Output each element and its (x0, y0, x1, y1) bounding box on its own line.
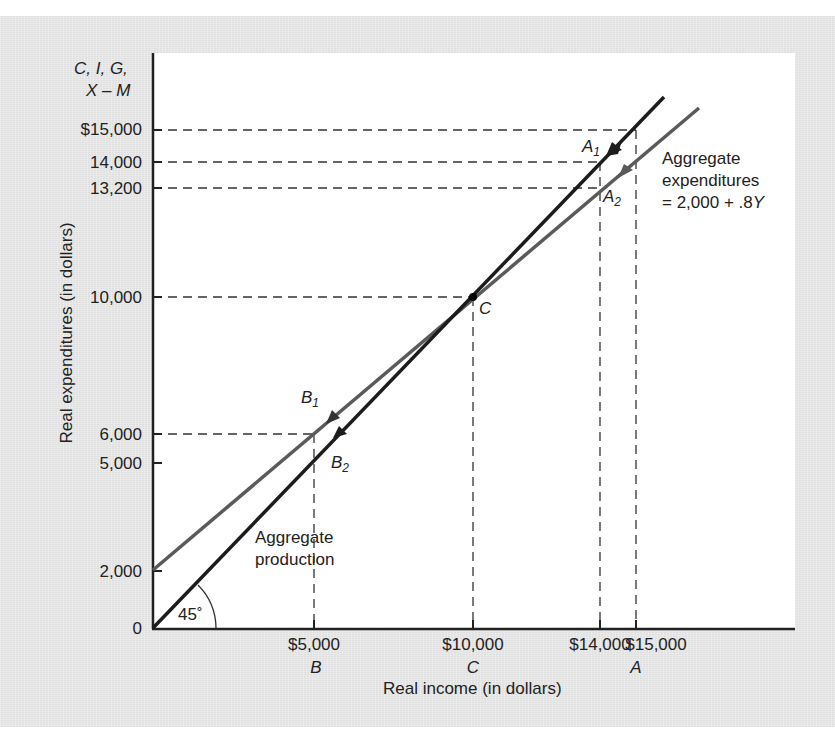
y-axis-top-label-2: X – M (86, 82, 130, 99)
ap-annotation-line2: production (255, 551, 334, 568)
x-tick-5000: $5,000 (264, 636, 364, 653)
ap-annotation-line1: Aggregate (255, 529, 333, 546)
y-tick-13200: 13,200 (22, 180, 142, 197)
x-axis-label: Real income (in dollars) (383, 680, 562, 697)
aggregate-production-line (153, 97, 664, 628)
point-b1-label: B1 (301, 389, 319, 406)
y-tick-6000: 6,000 (22, 426, 142, 443)
x-tick-15000: $15,000 (606, 636, 706, 653)
y-tick-10000: 10,000 (22, 289, 142, 306)
x-point-c: C (423, 659, 523, 676)
y-axis-top-label-1: C, I, G, (74, 60, 128, 77)
ae-annotation-line2: expenditures (662, 172, 759, 189)
point-a1-label: A1 (582, 138, 600, 155)
point-c-label: C (479, 300, 491, 317)
y-tick-0: 0 (22, 620, 142, 637)
point-c-marker (469, 293, 477, 301)
y-tick-15000: $15,000 (22, 121, 142, 138)
point-b2-label: B2 (331, 454, 349, 471)
ae-annotation-line1: Aggregate (662, 150, 740, 167)
ae-annotation-line3: = 2,000 + .8Y (662, 194, 764, 211)
y-axis-label: Real expenditures (in dollars) (57, 222, 77, 443)
y-tick-14000: 14,000 (22, 154, 142, 171)
point-a2-label: A2 (603, 188, 621, 205)
y-tick-2000: 2,000 (22, 563, 142, 580)
x-point-b: B (266, 659, 366, 676)
y-tick-5000: 5,000 (22, 455, 142, 472)
aggregate-expenditures-line (153, 108, 699, 570)
angle-label: 45˚ (178, 606, 203, 623)
x-tick-10000: $10,000 (423, 636, 523, 653)
x-point-a: A (586, 659, 686, 676)
